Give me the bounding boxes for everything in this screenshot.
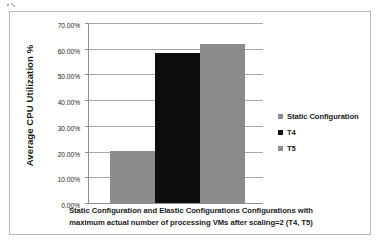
- legend-swatch-icon: [278, 130, 283, 135]
- y-tick-label: 20.00%: [36, 150, 80, 157]
- y-tick-mark: [85, 74, 88, 75]
- bar-static-configuration[interactable]: [110, 151, 155, 203]
- legend-label: Static Configuration: [287, 112, 359, 121]
- legend-swatch-icon: [278, 146, 283, 151]
- bar-group: [88, 23, 263, 203]
- y-tick-mark: [85, 49, 88, 50]
- legend-item-t4[interactable]: T4: [278, 124, 370, 140]
- legend-label: T4: [287, 128, 296, 137]
- y-tick-label: 60.00%: [36, 47, 80, 54]
- y-axis-title: Average CPU Utilization %: [24, 41, 35, 171]
- chart-frame: Average CPU Utilization % 70.00%60.00%50…: [9, 11, 371, 235]
- legend-item-t5[interactable]: T5: [278, 140, 370, 156]
- legend-item-static-configuration[interactable]: Static Configuration: [278, 108, 370, 124]
- y-tick-label: 10.00%: [36, 176, 80, 183]
- bar-t4[interactable]: [155, 53, 200, 203]
- y-tick-mark: [85, 177, 88, 178]
- x-axis-caption: Static Configuration and Elastic Configu…: [28, 205, 354, 228]
- bar-t5[interactable]: [200, 44, 245, 203]
- scan-artifact-speck: [6, 3, 16, 8]
- y-axis-tick-labels: 70.00%60.00%50.00%40.00%30.00%20.00%10.0…: [36, 24, 80, 204]
- y-tick-label: 50.00%: [36, 73, 80, 80]
- y-tick-label: 70.00%: [36, 22, 80, 29]
- y-tick-label: 40.00%: [36, 99, 80, 106]
- plot-area: [88, 23, 263, 203]
- y-tick-mark: [85, 23, 88, 24]
- y-tick-mark: [85, 100, 88, 101]
- chart-legend: Static ConfigurationT4T5: [278, 108, 370, 156]
- x-axis-caption-line-1: Static Configuration and Elastic Configu…: [28, 205, 354, 217]
- y-tick-label: 30.00%: [36, 124, 80, 131]
- y-tick-mark: [85, 203, 88, 204]
- y-tick-mark: [85, 126, 88, 127]
- legend-swatch-icon: [278, 114, 283, 119]
- legend-label: T5: [287, 144, 296, 153]
- x-axis-caption-line-2: maximum actual number of processing VMs …: [28, 217, 354, 229]
- gridline: [88, 203, 263, 204]
- y-tick-mark: [85, 152, 88, 153]
